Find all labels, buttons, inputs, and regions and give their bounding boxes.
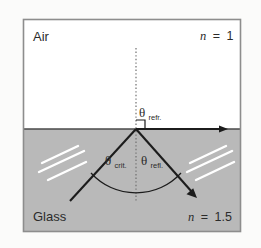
air-index-symbol: n	[200, 29, 206, 43]
angle-critical-symbol: θ	[105, 153, 111, 168]
air-index-equals: =	[213, 29, 220, 43]
angle-reflected-symbol: θ	[141, 153, 147, 168]
air-index-label: n = 1	[200, 29, 234, 43]
angle-refracted-subscript: refr.	[148, 113, 161, 122]
air-index-value: 1	[227, 29, 234, 43]
glass-index-label: n = 1.5	[188, 210, 232, 224]
angle-critical-subscript: crit.	[114, 161, 126, 170]
glass-label: Glass	[33, 209, 67, 224]
angle-refracted-symbol: θ	[139, 105, 145, 120]
glass-index-value: 1.5	[215, 210, 232, 224]
glass-index-equals: =	[201, 210, 208, 224]
glass-index-symbol: n	[188, 210, 194, 224]
figure-container: Air n = 1 Glass n = 1.5 θ refr. θ crit. …	[0, 0, 261, 248]
angle-reflected-subscript: refl.	[150, 161, 163, 170]
air-label: Air	[33, 29, 50, 44]
optics-diagram: Air n = 1 Glass n = 1.5 θ refr. θ crit. …	[0, 0, 261, 248]
